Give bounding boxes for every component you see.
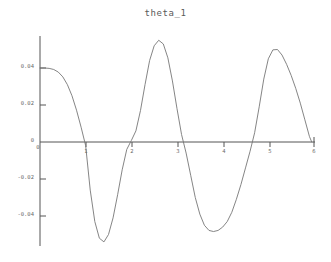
plot-canvas — [0, 0, 331, 262]
axes-group — [40, 36, 315, 246]
x-tick-label-1: 1 — [80, 149, 92, 155]
x-tick-label-5: 5 — [264, 149, 276, 155]
y-tick-label-0-02: 0.02 — [6, 101, 34, 107]
y-tick-label-neg-0-02: -0.02 — [4, 175, 34, 181]
x-tick-label-6: 6 — [308, 149, 320, 155]
x-tick-label-3: 3 — [172, 149, 184, 155]
plot-figure: theta_1 0.04 0.02 0 -0.02 -0.04 0 1 2 3 — [0, 0, 331, 262]
y-tick-label-neg-0-04: -0.04 — [4, 212, 34, 218]
x-tick-label-4: 4 — [218, 149, 230, 155]
y-tick-label-0: 0 — [6, 138, 34, 144]
y-tick-label-0-04: 0.04 — [6, 64, 34, 70]
x-tick-label-2: 2 — [126, 149, 138, 155]
data-curve-theta-1 — [40, 40, 312, 242]
data-curve-group — [40, 40, 312, 242]
x-tick-label-0: 0 — [32, 145, 44, 151]
